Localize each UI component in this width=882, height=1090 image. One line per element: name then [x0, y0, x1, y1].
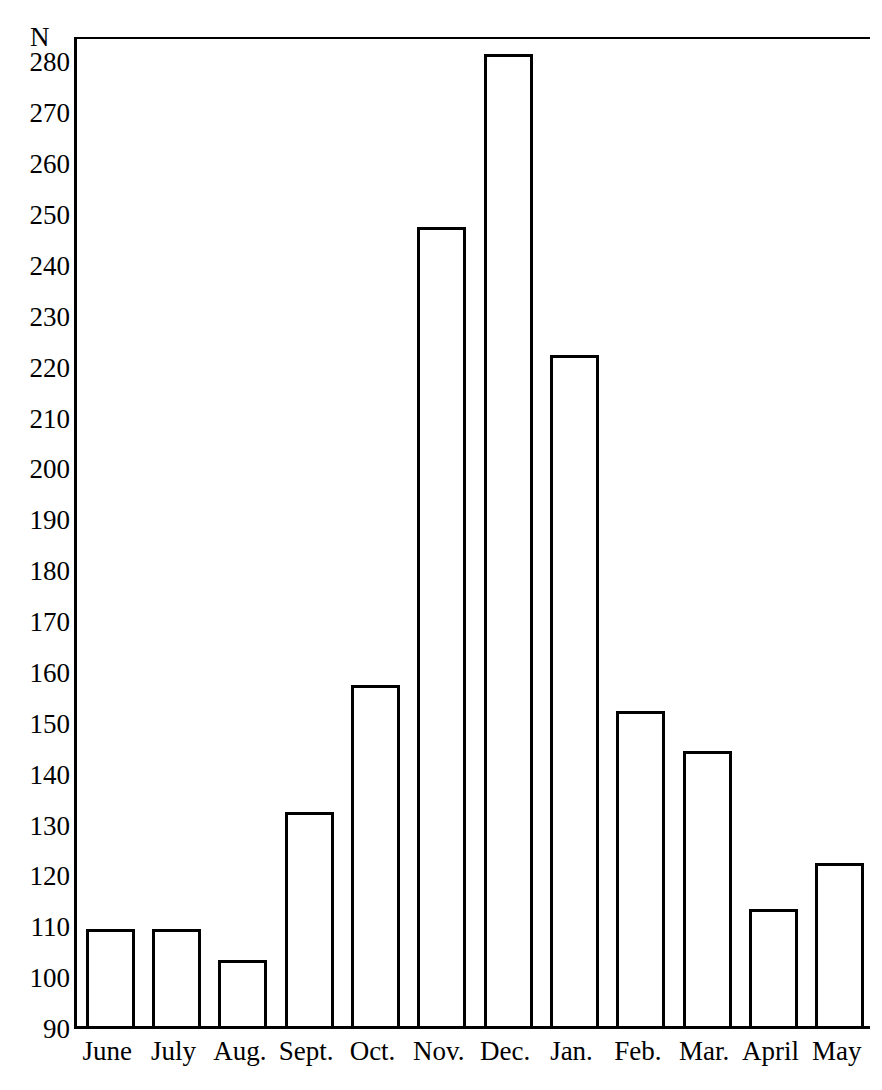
x-axis-tick-label: Aug. — [213, 1036, 266, 1066]
bar — [616, 711, 665, 1026]
bar — [749, 909, 798, 1026]
x-axis-tick-label: Feb. — [614, 1036, 661, 1066]
bar — [285, 812, 334, 1026]
y-axis-tick-label: 220 — [0, 354, 70, 381]
bar — [484, 54, 533, 1026]
bar-chart: N 90100110120130140150160170180190200210… — [0, 0, 882, 1090]
x-axis-tick-label: Jan. — [550, 1036, 593, 1066]
y-axis-tick-label: 230 — [0, 303, 70, 330]
bar — [86, 929, 135, 1026]
x-axis-tick-label: Nov. — [413, 1036, 465, 1066]
x-axis-tick-label: April — [742, 1036, 799, 1066]
y-axis-tick-label: 280 — [0, 49, 70, 76]
y-axis-tick-label: 260 — [0, 151, 70, 178]
x-axis-tick-label: Dec. — [480, 1036, 530, 1066]
y-axis-tick-label: 150 — [0, 710, 70, 737]
y-axis-tick-label: 180 — [0, 558, 70, 585]
y-axis-tick-label: 200 — [0, 456, 70, 483]
bar — [683, 751, 732, 1026]
y-axis-tick-label: 270 — [0, 100, 70, 127]
bar — [152, 929, 201, 1026]
y-axis-tick-label: 210 — [0, 405, 70, 432]
x-axis-tick-label: Sept. — [279, 1036, 334, 1066]
x-axis-tick-label: Mar. — [679, 1036, 729, 1066]
y-axis-tick-label: 110 — [0, 914, 70, 941]
bar — [417, 227, 466, 1026]
x-axis-tick-label: July — [151, 1036, 196, 1066]
plot-area — [74, 37, 870, 1029]
y-axis-tick-label: 100 — [0, 965, 70, 992]
y-axis-tick-label: 250 — [0, 202, 70, 229]
bar — [351, 685, 400, 1026]
y-axis-tick-label: 170 — [0, 609, 70, 636]
bar — [218, 960, 267, 1026]
y-axis-tick-label: 160 — [0, 659, 70, 686]
y-axis-tick-label: 90 — [0, 1016, 70, 1043]
x-axis-tick-label: May — [812, 1036, 862, 1066]
y-axis-tick-label: 190 — [0, 507, 70, 534]
x-axis-tick-label: Oct. — [350, 1036, 396, 1066]
x-axis-tick-label: June — [82, 1036, 132, 1066]
y-axis-tick-label: 120 — [0, 863, 70, 890]
bar — [815, 863, 864, 1026]
bar — [550, 355, 599, 1027]
y-axis-tick-label: 140 — [0, 761, 70, 788]
y-axis-tick-label: 130 — [0, 812, 70, 839]
y-axis-tick-label: 240 — [0, 252, 70, 279]
